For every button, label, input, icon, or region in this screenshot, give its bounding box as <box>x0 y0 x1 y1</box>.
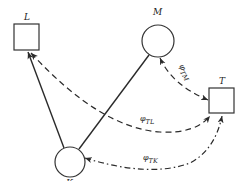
edge-tk-sub: TK <box>149 157 159 165</box>
node-l-square <box>14 24 39 50</box>
edge-label-tk: φTK <box>143 153 159 165</box>
edge-k-l <box>28 52 64 148</box>
svg-text:φTK: φTK <box>143 153 159 165</box>
edge-k-m <box>79 55 149 149</box>
node-l-label: L <box>23 12 30 22</box>
edge-label-tm: φTM <box>175 63 193 83</box>
node-k-label: K <box>65 178 74 181</box>
node-t: T <box>209 76 234 113</box>
node-k: K <box>55 147 85 181</box>
node-t-square <box>209 88 234 113</box>
svg-text:φTM: φTM <box>175 63 193 83</box>
node-t-label: T <box>219 76 226 86</box>
node-m: M <box>142 7 174 57</box>
edges <box>28 52 222 169</box>
edge-label-tl: φTL <box>140 114 154 126</box>
node-m-circle <box>142 25 174 57</box>
edge-tm-sub: TM <box>178 69 190 83</box>
svg-text:φTL: φTL <box>140 114 154 126</box>
node-m-label: M <box>152 7 163 17</box>
network-diagram: L M T K φTM φTL φTK <box>0 0 250 181</box>
node-k-circle <box>55 147 85 177</box>
node-l: L <box>14 12 39 50</box>
edge-tl-sub: TL <box>146 118 155 126</box>
